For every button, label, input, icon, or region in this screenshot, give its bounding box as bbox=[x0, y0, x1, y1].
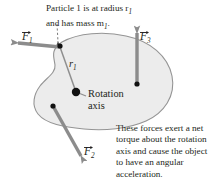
force-f3-application-dot bbox=[134, 81, 139, 86]
force-f2-application-dot bbox=[50, 103, 55, 108]
torque-caption-line-5: acceleration. bbox=[116, 169, 207, 180]
particle-caption-line-2: and has mass m1. bbox=[46, 18, 132, 33]
force-vector-f1-symbol: F bbox=[22, 30, 29, 42]
particle-caption-line-1-text: Particle 1 is at radius r bbox=[46, 3, 128, 13]
rotation-axis-dot bbox=[72, 88, 80, 96]
torque-caption-line-4: to have an angular bbox=[116, 157, 207, 168]
rotation-axis-label-line-1: Rotation bbox=[88, 88, 124, 100]
particle-caption-line-1: Particle 1 is at radius r1 bbox=[46, 3, 132, 18]
force-vector-f1-label: F1 bbox=[22, 30, 33, 45]
force-vector-f3-subscript: 3 bbox=[147, 37, 151, 45]
radius-label: r1 bbox=[69, 58, 77, 72]
force-vector-f1-subscript: 1 bbox=[29, 37, 33, 45]
rotation-axis-label: Rotation axis bbox=[88, 88, 124, 112]
force-vector-f3-label: F3 bbox=[140, 30, 151, 45]
particle-caption-line-1-subscript: 1 bbox=[128, 8, 132, 16]
particle-caption-line-2-period: . bbox=[108, 18, 110, 28]
force-vector-f2-subscript: 2 bbox=[91, 152, 95, 160]
rotation-axis-label-line-2: axis bbox=[88, 100, 124, 112]
force-vector-f3-symbol: F bbox=[140, 30, 147, 42]
torque-caption-line-2: torque about the rotation bbox=[116, 134, 207, 145]
particle-caption-line-2-text: and has mass m bbox=[46, 18, 104, 28]
radius-label-subscript: 1 bbox=[73, 64, 77, 72]
particle-caption: Particle 1 is at radius r1 and has mass … bbox=[46, 3, 132, 33]
torque-caption-line-3: axis and cause the object bbox=[116, 146, 207, 157]
force-vector-f2-symbol: F bbox=[84, 145, 91, 157]
force-vector-f2-label: F2 bbox=[84, 145, 95, 160]
rigid-body-torque-figure: Particle 1 is at radius r1 and has mass … bbox=[0, 0, 222, 182]
particle-1-dot bbox=[57, 43, 62, 48]
torque-caption: These forces exert a net torque about th… bbox=[116, 123, 207, 180]
torque-caption-line-1: These forces exert a net bbox=[116, 123, 207, 134]
